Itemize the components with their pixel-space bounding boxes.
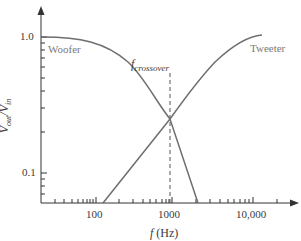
x-tick-10000: 10,000 (236, 208, 266, 220)
y-axis-label: Vout/Vin (0, 99, 13, 133)
y-axis-label-v: V (0, 126, 11, 133)
crossover-chart (0, 0, 301, 241)
y-tick-1-0: 1.0 (20, 30, 34, 42)
x-axis-arrow-icon (290, 200, 299, 207)
tweeter-label: Tweeter (250, 42, 285, 54)
x-tick-100: 100 (86, 208, 103, 220)
y-axis (41, 12, 47, 203)
woofer-label: Woofer (48, 43, 81, 55)
y-tick-0-1: 0.1 (22, 166, 36, 178)
y-axis-arrow-icon (38, 6, 45, 15)
x-axis (41, 197, 292, 203)
x-tick-1000: 1000 (158, 208, 180, 220)
y-axis-label-in: in (4, 99, 13, 105)
crossover-label: fcrossover (131, 57, 169, 73)
woofer-curve (42, 37, 198, 203)
y-axis-label-out: out (4, 116, 13, 126)
y-axis-label-slash: /V (0, 105, 11, 116)
x-axis-label-unit: (Hz) (153, 226, 178, 240)
x-axis-label: f (Hz) (150, 226, 178, 241)
crossover-label-sub: crossover (134, 63, 169, 73)
